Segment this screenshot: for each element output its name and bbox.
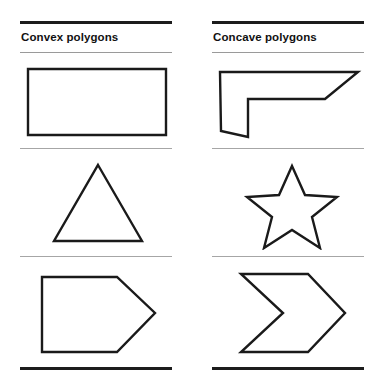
shape-cell-concave-l [192,66,383,146]
row-divider-1 [20,148,172,149]
triangle-icon [0,160,191,250]
concave-chevron-icon [192,268,383,363]
concave-l-shape-icon [192,66,383,146]
column-title-convex: Convex polygons [21,29,118,45]
five-point-star-icon [192,160,383,250]
column-title-concave: Concave polygons [213,29,317,45]
shape-cell-chevron [192,268,383,363]
shape-cell-star [192,160,383,250]
row-divider-1 [212,148,364,149]
shape-cell-triangle [0,160,191,250]
title-underline-rule [212,52,364,53]
polygons-figure: Convex polygons Concave polygons [0,0,383,386]
column-bottom-rule [20,367,172,370]
pentagon-arrow-icon [0,268,191,363]
column-top-rule [212,21,364,24]
row-divider-2 [20,256,172,257]
column-top-rule [20,21,172,24]
rectangle-icon [0,66,191,146]
column-convex-polygons: Convex polygons [0,0,191,386]
column-concave-polygons: Concave polygons [192,0,383,386]
title-underline-rule [20,52,172,53]
shape-cell-pentagon [0,268,191,363]
row-divider-2 [212,256,364,257]
column-bottom-rule [212,367,364,370]
shape-cell-rectangle [0,66,191,146]
